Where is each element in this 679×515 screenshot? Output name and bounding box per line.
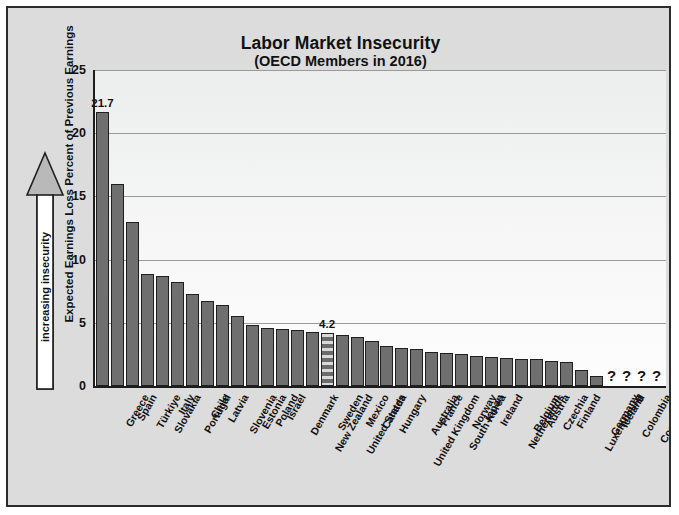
bar[interactable] xyxy=(410,349,423,386)
bar-slot[interactable] xyxy=(590,70,603,386)
bar-slot[interactable] xyxy=(126,70,139,386)
bar-slot[interactable] xyxy=(261,70,274,386)
bar-slot[interactable] xyxy=(336,70,349,386)
bar[interactable] xyxy=(261,328,274,386)
bar-slot[interactable]: ? xyxy=(650,70,663,386)
bar-slot[interactable] xyxy=(530,70,543,386)
bar[interactable] xyxy=(395,348,408,386)
bar-slot[interactable] xyxy=(560,70,573,386)
bar[interactable] xyxy=(276,329,289,386)
x-axis-category-labels: GreeceSpainTürkiyeSlovakiaItalyPortugalC… xyxy=(93,392,666,502)
chart-figure: Labor Market Insecurity (OECD Members in… xyxy=(6,6,671,507)
y-tick-label: 20 xyxy=(72,126,86,140)
no-data-marker: ? xyxy=(652,367,661,384)
plot-area: 0510152025 21.74.2???? xyxy=(93,70,666,388)
y-tick-label: 15 xyxy=(72,189,86,203)
arrow-label: increasing insecurity xyxy=(39,192,51,382)
y-tick-label: 10 xyxy=(72,253,86,267)
bar[interactable] xyxy=(590,376,603,386)
bar-slot[interactable]: 4.2 xyxy=(321,70,334,386)
bar[interactable] xyxy=(96,112,109,386)
bar[interactable] xyxy=(560,362,573,386)
bar[interactable] xyxy=(351,337,364,386)
bar-slot[interactable]: 21.7 xyxy=(96,70,109,386)
bar[interactable] xyxy=(336,335,349,386)
y-tick-label: 0 xyxy=(79,379,86,393)
bar[interactable] xyxy=(380,346,393,386)
bar-slot[interactable] xyxy=(380,70,393,386)
bar-value-label: 4.2 xyxy=(319,318,335,330)
bar-slot[interactable]: ? xyxy=(605,70,618,386)
bar[interactable] xyxy=(111,184,124,386)
bar-slot[interactable] xyxy=(186,70,199,386)
bar[interactable] xyxy=(291,330,304,386)
bar-slot[interactable] xyxy=(470,70,483,386)
bar-slot[interactable] xyxy=(410,70,423,386)
bar-slot[interactable] xyxy=(141,70,154,386)
bar[interactable] xyxy=(470,356,483,386)
bar-slot[interactable] xyxy=(351,70,364,386)
bar-slot[interactable]: ? xyxy=(635,70,648,386)
bar[interactable] xyxy=(186,294,199,386)
y-axis-line xyxy=(93,70,95,388)
bar[interactable] xyxy=(575,370,588,386)
bar[interactable] xyxy=(365,341,378,387)
bar-slot[interactable] xyxy=(515,70,528,386)
bars-group: 21.74.2???? xyxy=(95,70,666,386)
bar-slot[interactable] xyxy=(485,70,498,386)
chart-subtitle: (OECD Members in 2016) xyxy=(8,54,671,70)
bar-slot[interactable] xyxy=(246,70,259,386)
x-axis-line xyxy=(93,386,666,388)
bar[interactable] xyxy=(500,358,513,386)
bar-slot[interactable] xyxy=(395,70,408,386)
bar[interactable] xyxy=(156,276,169,386)
bar-slot[interactable] xyxy=(545,70,558,386)
bar-slot[interactable] xyxy=(500,70,513,386)
bar-slot[interactable]: ? xyxy=(620,70,633,386)
bar[interactable] xyxy=(141,274,154,386)
bar-slot[interactable] xyxy=(455,70,468,386)
bar[interactable] xyxy=(515,359,528,386)
bar[interactable] xyxy=(231,316,244,386)
bar[interactable] xyxy=(425,352,438,386)
bar-slot[interactable] xyxy=(216,70,229,386)
bar-slot[interactable] xyxy=(365,70,378,386)
y-tick-label: 5 xyxy=(79,316,86,330)
bar-slot[interactable] xyxy=(291,70,304,386)
bar-slot[interactable] xyxy=(440,70,453,386)
no-data-marker: ? xyxy=(637,367,646,384)
bar[interactable] xyxy=(126,222,139,386)
increasing-insecurity-arrow: increasing insecurity xyxy=(25,151,65,391)
bar-slot[interactable] xyxy=(231,70,244,386)
bar[interactable] xyxy=(246,325,259,386)
bar-slot[interactable] xyxy=(575,70,588,386)
no-data-marker: ? xyxy=(622,367,631,384)
y-tick-label: 25 xyxy=(72,63,86,77)
bar-slot[interactable] xyxy=(306,70,319,386)
bar[interactable] xyxy=(530,359,543,386)
bar[interactable] xyxy=(306,332,319,386)
bar-highlighted[interactable] xyxy=(321,333,334,386)
bar-slot[interactable] xyxy=(201,70,214,386)
bar-slot[interactable] xyxy=(276,70,289,386)
bar[interactable] xyxy=(216,305,229,386)
bar-slot[interactable] xyxy=(111,70,124,386)
bar[interactable] xyxy=(440,353,453,386)
bar-slot[interactable] xyxy=(425,70,438,386)
bar-slot[interactable] xyxy=(156,70,169,386)
bar[interactable] xyxy=(201,301,214,386)
page-title: Labor Market Insecurity xyxy=(8,34,671,53)
bar[interactable] xyxy=(545,361,558,386)
title-block: Labor Market Insecurity (OECD Members in… xyxy=(8,34,671,70)
bar[interactable] xyxy=(171,282,184,386)
bar[interactable] xyxy=(485,357,498,386)
bar-slot[interactable] xyxy=(171,70,184,386)
no-data-marker: ? xyxy=(607,367,616,384)
x-tick-label: Denmark xyxy=(308,392,341,437)
bar[interactable] xyxy=(455,354,468,386)
